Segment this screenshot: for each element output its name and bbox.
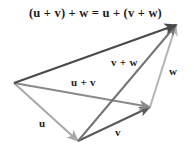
- vector-label-u: u: [39, 118, 45, 129]
- vector-diagram-canvas: [0, 0, 194, 156]
- vector-label-v-plus-w: v + w: [111, 57, 138, 68]
- vector-label-w: w: [169, 66, 177, 77]
- vector-v-line: [78, 107, 150, 141]
- vector-associativity-figure: (u + v) + w = u + (v + w): [0, 0, 194, 156]
- vector-label-v: v: [115, 127, 121, 138]
- vector-label-u-plus-v: u + v: [71, 77, 96, 88]
